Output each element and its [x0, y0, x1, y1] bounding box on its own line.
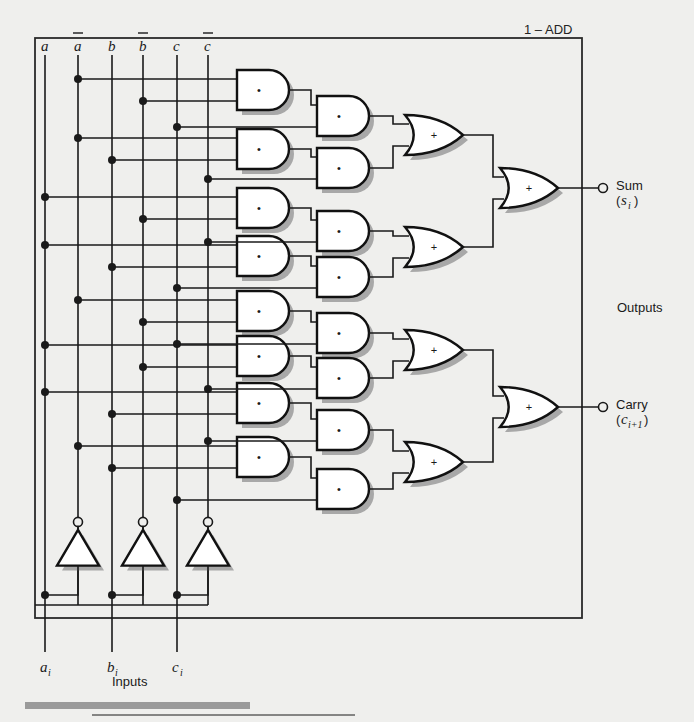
and1-1-in-bot-junction: [139, 97, 147, 105]
sum-output-terminal: [599, 184, 608, 193]
and1-5-in-bot-junction: [139, 318, 147, 326]
and2-8-in-rail-junction: [173, 496, 181, 504]
and1-2-symbol: •: [257, 143, 261, 155]
carry-output-sub-index: i+1: [628, 419, 643, 430]
rule-bar: [25, 702, 250, 709]
or-final-sum-in-top: [463, 135, 504, 177]
and2-6-in-rail-junction: [204, 385, 212, 393]
and1-6-symbol: •: [257, 350, 261, 362]
and2-3: [317, 211, 369, 251]
or3-1-symbol: +: [431, 129, 437, 141]
or3-4-in-bot: [369, 473, 409, 489]
inverter-a: [57, 530, 99, 566]
or3-2-in-top: [369, 231, 409, 236]
inverter-a-feed-junction: [41, 591, 49, 599]
or3-4-in-top: [369, 430, 409, 451]
or-final-sum-symbol: +: [526, 182, 532, 194]
sum-output-sub-close: ): [634, 193, 638, 208]
and1-1: [237, 70, 289, 110]
and1-4-symbol: •: [257, 250, 261, 262]
and1-8-in-bot-junction: [108, 464, 116, 472]
carry-output-sub-close: ): [644, 412, 648, 427]
and1-6: [237, 336, 289, 376]
inverter-c-bubble: [204, 517, 213, 526]
and2-6: [317, 358, 369, 398]
and1-5: [237, 291, 289, 331]
carry-output-label: Carry: [616, 397, 648, 412]
diagram-frame: [35, 38, 582, 618]
or-final-carry-in-top: [463, 350, 504, 396]
or3-2-symbol: +: [431, 241, 437, 253]
rail-label-b: b: [108, 38, 116, 54]
figure-title: 1 – ADD: [524, 22, 572, 37]
outputs-caption: Outputs: [617, 300, 663, 315]
rail-label-a: a: [41, 38, 49, 54]
or-final-carry-in-bot: [463, 418, 504, 462]
rail-label-c: c: [173, 38, 180, 54]
rail-label-cn: c: [204, 38, 211, 54]
and2-7-in-rail-junction: [204, 437, 212, 445]
inverter-c-feed-junction: [173, 591, 181, 599]
and1-3-in-bot-junction: [139, 215, 147, 223]
c-input-label-index: i: [180, 667, 183, 678]
and1-6-in-bot-junction: [139, 363, 147, 371]
and2-5: [317, 313, 369, 353]
or3-4-symbol: +: [431, 456, 437, 468]
or-final-carry-symbol: +: [526, 401, 532, 413]
inverter-b-feed-junction: [108, 591, 116, 599]
or3-3-in-bot: [369, 361, 409, 378]
inverter-c: [187, 530, 229, 566]
and1-1-symbol: •: [257, 84, 261, 96]
and1-7-in-top-junction: [41, 388, 49, 396]
outputs-caption-wrap: Outputs: [617, 298, 663, 316]
and1-8: [237, 437, 289, 477]
and2-2-symbol: •: [337, 162, 341, 174]
and1-6-in-top-junction: [41, 341, 49, 349]
carry-output-sub-var: c: [621, 411, 628, 427]
sum-output-sub-index: i: [628, 200, 631, 211]
and1-8-in-top-junction: [74, 442, 82, 450]
and2-3-in-rail-junction: [204, 238, 212, 246]
and2-4-in-rail-junction: [173, 284, 181, 292]
and1-4-in-top-junction: [41, 241, 49, 249]
or-final-sum-in-bot: [463, 199, 504, 247]
c-input-label: c: [172, 659, 179, 675]
or3-3-symbol: +: [431, 344, 437, 356]
carry-output-sublabel: (ci+1): [616, 411, 648, 430]
or3-3-in-top: [369, 333, 409, 339]
and1-7-symbol: •: [257, 397, 261, 409]
inverter-a-bubble: [74, 517, 83, 526]
and2-4: [317, 257, 369, 297]
and2-7-symbol: •: [337, 424, 341, 436]
and1-8-symbol: •: [257, 451, 261, 463]
and1-3: [237, 188, 289, 228]
and1-5-in-top-junction: [74, 296, 82, 304]
and1-1-in-top-junction: [74, 75, 82, 83]
and1-2-in-bot-junction: [108, 156, 116, 164]
or3-1-in-top: [369, 116, 409, 124]
inputs-caption: Inputs: [112, 674, 147, 689]
and2-7: [317, 410, 369, 450]
inputs-caption-wrap: Inputs: [112, 672, 147, 690]
and1-5-symbol: •: [257, 305, 261, 317]
and2-6-symbol: •: [337, 372, 341, 384]
figure-title-wrap: 1 – ADD: [524, 20, 572, 38]
inverter-b: [122, 530, 164, 566]
and1-2: [237, 129, 289, 169]
and2-1-in-rail-junction: [173, 123, 181, 131]
and1-2-in-top-junction: [74, 134, 82, 142]
and2-8: [317, 469, 369, 509]
and1-7-in-bot-junction: [108, 410, 116, 418]
and1-4-in-bot-junction: [108, 263, 116, 271]
and2-5-symbol: •: [337, 327, 341, 339]
a-input-label-index: i: [48, 667, 51, 678]
sum-output-sublabel: (si): [616, 192, 638, 211]
sum-output-sub-var: s: [621, 192, 627, 208]
or3-1-in-bot: [369, 146, 409, 168]
figure-canvas: aabbcc••••••••••••••••++++++Sum(si)Carry…: [0, 0, 694, 722]
and1-3-in-top-junction: [41, 193, 49, 201]
and2-5-in-rail-junction: [173, 340, 181, 348]
logic-diagram: aabbcc••••••••••••••••++++++Sum(si)Carry…: [0, 0, 694, 722]
inverter-b-bubble: [139, 517, 148, 526]
and1-3-symbol: •: [257, 202, 261, 214]
